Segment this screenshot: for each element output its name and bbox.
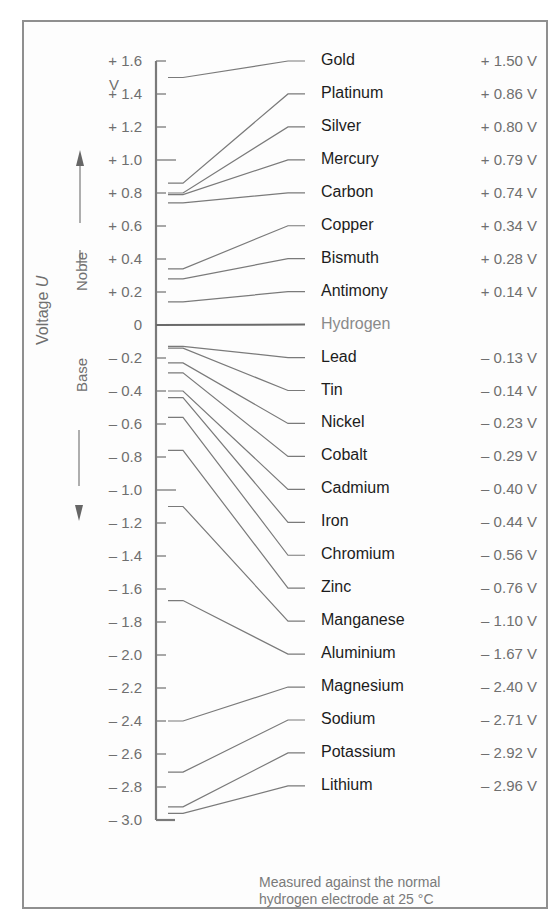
element-potential-zinc: – 0.76 V <box>481 580 537 595</box>
element-potential-iron: – 0.44 V <box>481 514 537 529</box>
element-name-gold: Gold <box>321 52 355 68</box>
element-name-aluminium: Aluminium <box>321 645 396 661</box>
axis-tick-label: + 1.4 <box>72 86 142 101</box>
footnote: Measured against the normal hydrogen ele… <box>259 874 440 908</box>
connector-lithium <box>168 786 305 814</box>
element-potential-magnesium: – 2.40 V <box>481 679 537 694</box>
voltage-axis <box>156 61 176 820</box>
element-name-zinc: Zinc <box>321 579 351 595</box>
connector-copper <box>168 226 305 269</box>
connector-potassium <box>168 753 305 807</box>
axis-tick-label: + 1.0 <box>72 152 142 167</box>
axis-tick-label: – 2.8 <box>72 779 142 794</box>
element-potential-potassium: – 2.92 V <box>481 745 537 760</box>
connector-aluminium <box>168 601 305 655</box>
axis-tick-label: – 2.4 <box>72 713 142 728</box>
element-name-carbon: Carbon <box>321 184 373 200</box>
axis-tick-label: – 2.6 <box>72 746 142 761</box>
axis-title-symbol: U <box>34 276 51 288</box>
element-potential-lithium: – 2.96 V <box>481 778 537 793</box>
footnote-line-2: hydrogen electrode at 25 °C <box>259 891 440 908</box>
element-name-nickel: Nickel <box>321 414 365 430</box>
axis-tick-label: – 1.4 <box>72 548 142 563</box>
element-potential-silver: + 0.80 V <box>481 119 537 134</box>
element-name-bismuth: Bismuth <box>321 250 379 266</box>
element-potential-nickel: – 0.23 V <box>481 415 537 430</box>
axis-tick-label: + 1.6 <box>72 53 142 68</box>
noble-label: Noble <box>73 252 90 291</box>
element-name-iron: Iron <box>321 513 349 529</box>
element-potential-carbon: + 0.74 V <box>481 185 537 200</box>
element-potential-cadmium: – 0.40 V <box>481 481 537 496</box>
connector-lines <box>156 61 305 820</box>
element-potential-lead: – 0.13 V <box>481 350 537 365</box>
connector-lead <box>168 346 305 357</box>
element-potential-aluminium: – 1.67 V <box>481 646 537 661</box>
connector-carbon <box>168 193 305 203</box>
axis-title-text: Voltage <box>34 287 51 345</box>
element-name-lead: Lead <box>321 349 357 365</box>
connector-zinc <box>168 450 305 588</box>
element-potential-cobalt: – 0.29 V <box>481 448 537 463</box>
axis-tick-label: – 2.0 <box>72 647 142 662</box>
connector-iron <box>168 398 305 523</box>
connector-sodium <box>168 720 305 772</box>
connector-magnesium <box>168 687 305 721</box>
element-name-silver: Silver <box>321 118 361 134</box>
element-name-copper: Copper <box>321 217 373 233</box>
element-name-mercury: Mercury <box>321 151 379 167</box>
axis-tick-label: – 0.8 <box>72 449 142 464</box>
connector-platinum <box>168 94 305 183</box>
element-name-tin: Tin <box>321 382 343 398</box>
element-potential-platinum: + 0.86 V <box>481 86 537 101</box>
element-name-sodium: Sodium <box>321 711 375 727</box>
base-label: Base <box>73 358 90 392</box>
element-name-cobalt: Cobalt <box>321 447 367 463</box>
element-name-cadmium: Cadmium <box>321 480 389 496</box>
axis-tick-label: – 1.2 <box>72 515 142 530</box>
axis-unit: V <box>109 77 119 92</box>
element-potential-bismuth: + 0.28 V <box>481 251 537 266</box>
connector-cobalt <box>168 373 305 457</box>
connector-cadmium <box>168 391 305 489</box>
connector-antimony <box>168 292 305 302</box>
element-potential-antimony: + 0.14 V <box>481 284 537 299</box>
connector-tin <box>168 348 305 390</box>
connector-silver <box>168 127 305 193</box>
element-name-lithium: Lithium <box>321 777 373 793</box>
element-name-hydrogen: Hydrogen <box>321 316 390 332</box>
direction-arrows <box>75 150 84 521</box>
element-name-magnesium: Magnesium <box>321 678 404 694</box>
axis-tick-label: – 3.0 <box>72 812 142 827</box>
connector-bismuth <box>168 259 305 279</box>
element-name-manganese: Manganese <box>321 612 405 628</box>
element-name-chromium: Chromium <box>321 546 395 562</box>
axis-tick-label: – 1.0 <box>72 482 142 497</box>
element-potential-gold: + 1.50 V <box>481 53 537 68</box>
element-potential-copper: + 0.34 V <box>481 218 537 233</box>
element-name-potassium: Potassium <box>321 744 396 760</box>
connector-gold <box>168 61 305 78</box>
axis-title: Voltage U <box>34 276 52 345</box>
element-potential-manganese: – 1.10 V <box>481 613 537 628</box>
axis-tick-label: – 1.8 <box>72 614 142 629</box>
axis-tick-label: – 1.6 <box>72 581 142 596</box>
axis-tick-label: + 0.6 <box>72 218 142 233</box>
element-potential-mercury: + 0.79 V <box>481 152 537 167</box>
element-name-platinum: Platinum <box>321 85 383 101</box>
axis-tick-label: + 0.8 <box>72 185 142 200</box>
element-potential-chromium: – 0.56 V <box>481 547 537 562</box>
element-potential-tin: – 0.14 V <box>481 383 537 398</box>
axis-tick-label: 0 <box>72 317 142 332</box>
axis-tick-label: – 0.6 <box>72 416 142 431</box>
axis-tick-label: + 1.2 <box>72 119 142 134</box>
footnote-line-1: Measured against the normal <box>259 874 440 891</box>
connector-nickel <box>168 363 305 424</box>
axis-tick-label: – 2.2 <box>72 680 142 695</box>
element-name-antimony: Antimony <box>321 283 388 299</box>
element-potential-sodium: – 2.71 V <box>481 712 537 727</box>
